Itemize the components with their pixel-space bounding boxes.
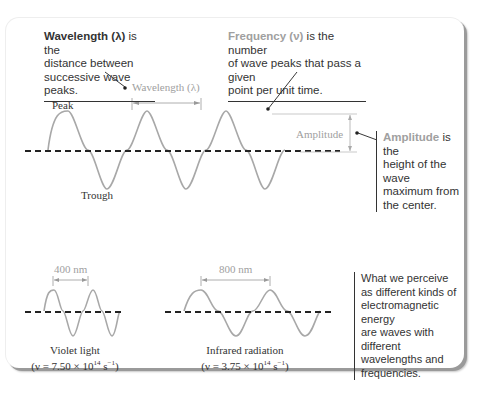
perceive-line4: are waves with different <box>361 326 434 352</box>
infrared-name: Infrared radiation <box>206 344 283 356</box>
violet-name: Violet light <box>50 344 100 356</box>
wavelength-note-line2: distance between <box>44 57 134 69</box>
frequency-note: Frequency (ν) is the number of wave peak… <box>228 30 366 102</box>
frequency-term: Frequency (ν) <box>228 30 303 42</box>
violet-wave <box>25 276 125 336</box>
violet-unit-exp: −1 <box>108 359 115 367</box>
perceive-note: What we perceive as different kinds of e… <box>354 272 461 380</box>
violet-exp: 14 <box>94 359 101 367</box>
perceive-line3: electromagnetic energy <box>361 299 439 325</box>
perceive-line1: What we perceive <box>361 272 448 284</box>
frequency-note-line3: point per unit time. <box>228 84 323 96</box>
perceive-line5: wavelengths and <box>361 353 444 365</box>
amplitude-pointer <box>358 133 377 140</box>
amplitude-marker-label: Amplitude <box>296 128 343 140</box>
infrared-unit-exp: −1 <box>278 359 285 367</box>
amplitude-note-line4: the center. <box>383 199 437 211</box>
amplitude-note-line3: maximum from <box>383 185 459 197</box>
infrared-close: ) <box>285 360 289 372</box>
violet-close: ) <box>115 360 119 372</box>
amplitude-term: Amplitude <box>383 131 439 143</box>
wavelength-marker-label: Wavelength (λ) <box>132 81 200 93</box>
frequency-note-line2: of wave peaks that pass a given <box>228 57 361 83</box>
infrared-exp: 14 <box>264 359 271 367</box>
infrared-unit: s <box>271 360 278 372</box>
wavelength-term: Wavelength (λ) <box>44 30 125 42</box>
wavelength-note-line3: successive wave peaks. <box>44 71 130 97</box>
violet-unit: s <box>101 360 108 372</box>
violet-wavelength-label: 400 nm <box>54 263 87 275</box>
violet-caption: Violet light (ν = 7.50 × 1014 s−1) <box>25 344 125 373</box>
infrared-frequency: (ν = 3.75 × 10 <box>201 360 263 372</box>
infrared-wave <box>165 276 333 336</box>
amplitude-note: Amplitude is the height of the wave maxi… <box>376 131 463 212</box>
infrared-caption: Infrared radiation (ν = 3.75 × 1014 s−1) <box>195 344 295 373</box>
perceive-line6: frequencies. <box>361 367 421 379</box>
trough-label: Trough <box>81 189 113 201</box>
amplitude-note-line2: height of the wave <box>383 158 446 184</box>
peak-label: Peak <box>52 99 73 111</box>
infrared-wavelength-label: 800 nm <box>219 263 252 275</box>
perceive-line2: as different kinds of <box>361 286 456 298</box>
main-sine-wave <box>48 111 285 189</box>
violet-frequency: (ν = 7.50 × 10 <box>31 360 93 372</box>
